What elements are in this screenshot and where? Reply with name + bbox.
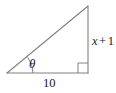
- right-angle-marker-icon: [78, 63, 88, 73]
- opposite-side-variable: x: [92, 34, 98, 48]
- hypotenuse-line: [7, 6, 88, 73]
- adjacent-side-label: 10: [43, 77, 56, 90]
- opposite-side-constant: 1: [108, 34, 114, 48]
- opposite-side-operator: +: [99, 34, 106, 48]
- angle-theta-label: θ: [29, 57, 35, 70]
- opposite-side-label: x+1: [92, 35, 114, 48]
- triangle-figure: θ x+1 10: [0, 0, 116, 93]
